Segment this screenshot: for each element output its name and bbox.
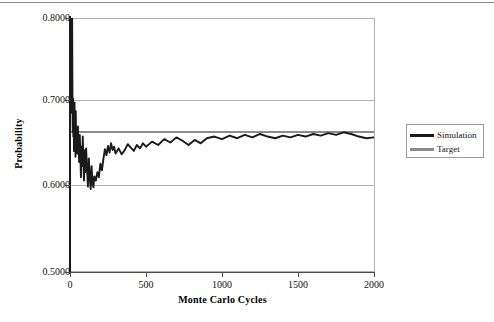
x-tick-mark-1000 xyxy=(222,272,223,277)
legend-swatch-simulation-icon xyxy=(410,134,434,137)
x-axis-title: Monte Carlo Cycles xyxy=(70,294,375,305)
x-tick-label-500: 500 xyxy=(116,279,176,290)
y-axis-title: Probability xyxy=(13,99,24,189)
simulation-series xyxy=(70,18,374,272)
legend-item-simulation: Simulation xyxy=(407,128,483,142)
y-tick-label-0.8000: 0.8000 xyxy=(8,13,70,23)
chart-figure: 0.8000 0.7000 0.6000 0.5000 0 500 1000 1… xyxy=(0,0,494,322)
x-tick-label-1500: 1500 xyxy=(268,279,328,290)
y-tick-0.5000: 0.5000 xyxy=(0,267,70,277)
x-tick-mark-1500 xyxy=(298,272,299,277)
y-axis-line xyxy=(69,16,71,274)
y-tick-0.7000: 0.7000 xyxy=(0,95,70,105)
x-tick-label-2000: 2000 xyxy=(344,279,404,290)
legend-label-simulation: Simulation xyxy=(437,130,477,140)
x-tick-mark-500 xyxy=(146,272,147,277)
legend-label-target: Target xyxy=(437,144,460,154)
legend-item-target: Target xyxy=(407,142,483,156)
legend-swatch-target-icon xyxy=(410,148,434,151)
x-tick-mark-0 xyxy=(70,272,71,277)
y-tick-0.6000: 0.6000 xyxy=(0,180,70,190)
y-tick-mark-0.8000 xyxy=(65,18,70,19)
x-tick-label-1000: 1000 xyxy=(192,279,252,290)
y-tick-mark-0.7000 xyxy=(65,100,70,101)
y-tick-mark-0.6000 xyxy=(65,185,70,186)
chart-legend: Simulation Target xyxy=(406,124,484,158)
x-tick-label-0: 0 xyxy=(40,279,100,290)
y-tick-0.8000: 0.8000 xyxy=(0,13,70,23)
x-tick-mark-2000 xyxy=(374,272,375,277)
plot-frame-right xyxy=(374,18,375,272)
y-tick-label-0.5000: 0.5000 xyxy=(8,267,70,277)
